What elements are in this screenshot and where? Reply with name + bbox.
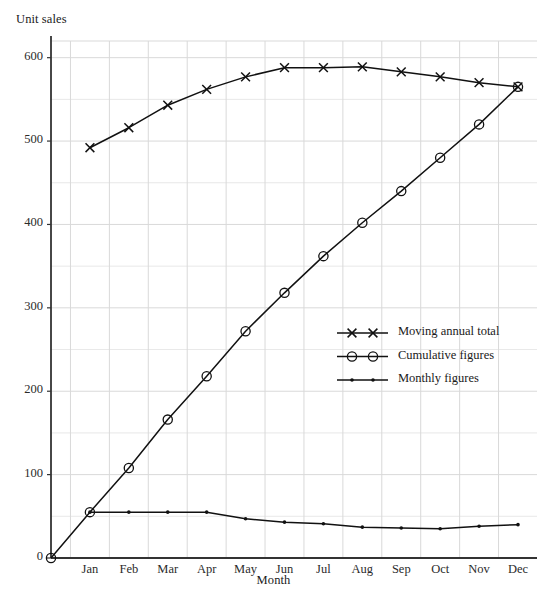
y-tick-label: 200 [0,382,43,397]
x-tick-label: Dec [495,562,541,577]
legend-symbols [337,329,388,382]
y-tick-label: 100 [0,466,43,481]
axis-lines [51,36,537,558]
legend-item-label: Cumulative figures [398,348,494,363]
legend-item-label: Moving annual total [398,324,499,339]
chart-plot-area [0,0,547,606]
y-tick-label: 300 [0,299,43,314]
y-tick-label: 600 [0,49,43,64]
y-tick-label: 500 [0,132,43,147]
legend-item-label: Monthly figures [398,371,479,386]
y-tick-label: 0 [0,549,43,564]
gridlines [51,41,537,558]
chart-container: Unit sales Month 0100200300400500600JanF… [0,0,547,606]
y-tick-label: 400 [0,215,43,230]
series-2 [46,82,522,562]
